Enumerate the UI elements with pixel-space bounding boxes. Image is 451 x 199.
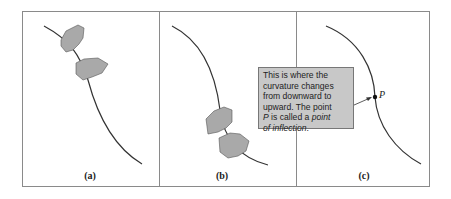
hand-icon-a-lower bbox=[76, 58, 108, 80]
panel-label-a: (a) bbox=[84, 170, 96, 181]
callout-em-inflection: of inflection bbox=[263, 123, 306, 133]
callout-line-2: curvature changes bbox=[263, 81, 349, 92]
inflection-point-marker bbox=[373, 95, 377, 99]
panel-label-c: (c) bbox=[358, 170, 369, 181]
inflection-callout: This is where the curvature changes from… bbox=[258, 67, 354, 129]
curve-a bbox=[44, 26, 142, 164]
hand-icon-b-upper bbox=[206, 107, 232, 134]
callout-line-1: This is where the bbox=[263, 70, 349, 81]
hand-icon-a-upper bbox=[61, 25, 84, 52]
callout-line-5: P is called a point bbox=[263, 112, 349, 123]
panel-label-b: (b) bbox=[216, 170, 228, 181]
callout-text-6: . bbox=[306, 123, 308, 133]
callout-text-5: is called a bbox=[269, 112, 312, 122]
callout-line-4: upward. The point bbox=[263, 102, 349, 113]
callout-em-point: point bbox=[312, 112, 331, 122]
callout-line-3: from downward to bbox=[263, 91, 349, 102]
arrowhead-icon bbox=[366, 97, 372, 101]
callout-line-6: of inflection. bbox=[263, 123, 349, 134]
point-p-label: P bbox=[379, 89, 385, 100]
